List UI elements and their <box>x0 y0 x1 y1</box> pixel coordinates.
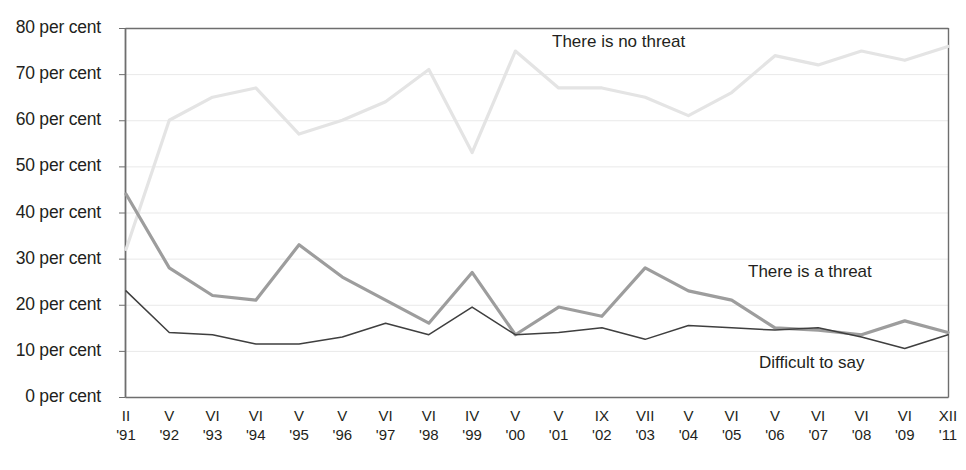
x-axis-label-month: VI <box>794 406 842 425</box>
x-axis-label-month: V <box>535 406 583 425</box>
x-axis-label-month: XII <box>924 406 966 425</box>
x-axis-label: VI'08 <box>837 406 885 444</box>
x-axis-label: V'04 <box>664 406 712 444</box>
x-axis-label: V'01 <box>535 406 583 444</box>
x-axis-label-year: '98 <box>405 425 453 444</box>
x-axis-label-year: '95 <box>275 425 323 444</box>
chart-plot-area <box>0 0 966 470</box>
x-axis-label: V'00 <box>491 406 539 444</box>
series-label-2: Difficult to say <box>759 353 865 373</box>
x-axis-label: V'92 <box>145 406 193 444</box>
x-axis-label: II'91 <box>102 406 150 444</box>
x-axis-label-year: '07 <box>794 425 842 444</box>
gridlines <box>126 75 948 398</box>
x-axis-label-year: '08 <box>837 425 885 444</box>
x-axis-label: VI'94 <box>232 406 280 444</box>
x-axis-label: IV'99 <box>448 406 496 444</box>
series-line-0 <box>126 46 948 249</box>
x-axis-label-year: '93 <box>189 425 237 444</box>
series-label-1: There is a threat <box>748 262 872 282</box>
x-axis-label-year: '05 <box>708 425 756 444</box>
x-axis-label-month: IV <box>448 406 496 425</box>
x-axis-label-year: '94 <box>232 425 280 444</box>
x-axis-label-year: '01 <box>535 425 583 444</box>
x-axis-label-month: IX <box>578 406 626 425</box>
x-axis-label: VI'07 <box>794 406 842 444</box>
x-axis-label-year: '06 <box>751 425 799 444</box>
x-axis-label-month: VI <box>837 406 885 425</box>
x-axis-label-month: V <box>145 406 193 425</box>
x-axis-label-month: VI <box>405 406 453 425</box>
x-axis-label-year: '96 <box>318 425 366 444</box>
x-axis-label: V'06 <box>751 406 799 444</box>
line-chart: 80 per cent70 per cent60 per cent50 per … <box>0 0 966 470</box>
x-axis-label-month: V <box>664 406 712 425</box>
x-axis-label: VI'09 <box>881 406 929 444</box>
x-axis-label: VI'93 <box>189 406 237 444</box>
x-axis-label-year: '97 <box>362 425 410 444</box>
x-axis-label: V'96 <box>318 406 366 444</box>
x-axis-label-month: V <box>491 406 539 425</box>
x-axis-label-month: VI <box>881 406 929 425</box>
x-axis-label-year: '00 <box>491 425 539 444</box>
x-axis-label: V'95 <box>275 406 323 444</box>
x-axis-label-month: V <box>275 406 323 425</box>
x-axis-label-year: '09 <box>881 425 929 444</box>
x-axis-label-month: VI <box>362 406 410 425</box>
x-axis-label-month: VI <box>232 406 280 425</box>
x-axis-label: VII'03 <box>621 406 669 444</box>
x-axis-label-month: VI <box>708 406 756 425</box>
x-axis-label-month: II <box>102 406 150 425</box>
y-tick-marks <box>119 29 126 398</box>
x-axis-label-year: '03 <box>621 425 669 444</box>
x-axis-label: VI'98 <box>405 406 453 444</box>
x-axis-label-year: '92 <box>145 425 193 444</box>
x-axis-label-year: '04 <box>664 425 712 444</box>
x-axis-label-month: VII <box>621 406 669 425</box>
x-axis-label-year: '99 <box>448 425 496 444</box>
x-axis-label-month: V <box>751 406 799 425</box>
x-axis-label: IX'02 <box>578 406 626 444</box>
x-axis-label-year: '11 <box>924 425 966 444</box>
series-label-0: There is no threat <box>552 32 685 52</box>
x-axis-label-year: '02 <box>578 425 626 444</box>
x-axis-label-year: '91 <box>102 425 150 444</box>
x-axis-label: VI'97 <box>362 406 410 444</box>
x-axis-label: XII'11 <box>924 406 966 444</box>
x-axis-label: VI'05 <box>708 406 756 444</box>
x-axis-label-month: V <box>318 406 366 425</box>
x-axis-label-month: VI <box>189 406 237 425</box>
